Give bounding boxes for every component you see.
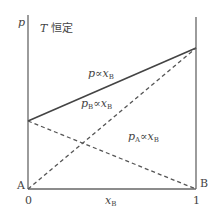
x-axis-label: xB: [105, 195, 116, 208]
x-tick-1: 1: [193, 195, 200, 206]
label-x-sub: B: [154, 136, 159, 144]
label-x-sub: B: [109, 73, 114, 81]
total-pressure-label: p∝xB: [88, 68, 114, 81]
title-var: T: [40, 22, 47, 35]
title-text: 恒定: [51, 22, 73, 35]
label-var: p: [81, 97, 88, 110]
partial-pressure-a-line: [28, 121, 196, 189]
label-rel: ∝: [140, 130, 147, 143]
partial-pressure-b-label: pB∝xB: [81, 98, 112, 111]
label-rel: ∝: [93, 97, 100, 110]
label-rel: ∝: [95, 67, 102, 80]
x-tick-0: 0: [25, 195, 32, 206]
label-x-sub: B: [107, 103, 112, 111]
label-var: p: [128, 130, 135, 143]
corner-label-a: A: [17, 180, 25, 191]
label-var: p: [88, 67, 95, 80]
title-label: T 恒定: [40, 23, 73, 34]
partial-pressure-a-label: pA∝xB: [128, 131, 159, 144]
x-sub: B: [111, 200, 116, 208]
y-axis-label: p: [18, 17, 25, 28]
corner-label-b: B: [200, 178, 208, 189]
